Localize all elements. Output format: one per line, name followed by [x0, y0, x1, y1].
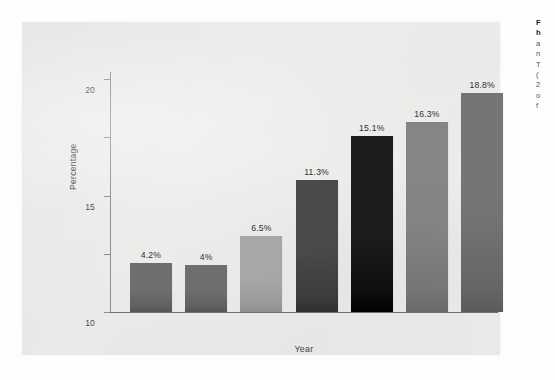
caption-line: F	[536, 18, 555, 28]
bar-value-label: 6.5%	[251, 223, 271, 233]
y-tick-mark: 5	[104, 254, 110, 255]
y-axis-line	[110, 72, 111, 312]
caption-line: n	[536, 49, 555, 59]
caption-text-cropped: FhanT(2of	[536, 18, 555, 128]
caption-line: (	[536, 70, 555, 80]
bar[interactable]	[185, 265, 227, 312]
bar-value-label: 4%	[200, 252, 213, 262]
bar-value-label: 11.3%	[304, 167, 329, 177]
caption-line: T	[536, 60, 555, 70]
y-tick-mark: 20	[104, 79, 110, 80]
chart-panel: Percentage 05101520 4.2%1963-19654%1971-…	[22, 22, 500, 355]
bar[interactable]	[130, 263, 172, 312]
bar-value-label: 4.2%	[141, 250, 161, 260]
bar[interactable]	[296, 180, 338, 312]
y-tick-mark: 0	[104, 312, 110, 313]
caption-line: h	[536, 28, 555, 38]
caption-line: 2	[536, 80, 555, 90]
x-axis-line	[110, 312, 498, 313]
y-tick-label: 10	[85, 318, 95, 328]
caption-line: a	[536, 39, 555, 49]
y-tick-label: 15	[85, 202, 95, 212]
caption-line: o	[536, 91, 555, 101]
bar[interactable]	[240, 236, 282, 312]
y-tick-label: 20	[85, 85, 95, 95]
y-axis-title: Percentage	[68, 144, 78, 190]
x-axis-title: Year	[110, 344, 498, 354]
y-tick-mark: 10	[104, 196, 110, 197]
bar-value-label: 15.1%	[359, 123, 384, 133]
caption-line: f	[536, 101, 555, 111]
figure-page: Percentage 05101520 4.2%1963-19654%1971-…	[0, 0, 555, 380]
y-tick-mark: 15	[104, 137, 110, 138]
plot-area: 05101520 4.2%1963-19654%1971-19746.5%197…	[110, 68, 498, 312]
bar[interactable]	[406, 122, 448, 312]
bar-value-label: 18.8%	[470, 80, 495, 90]
bar[interactable]	[351, 136, 393, 312]
bar[interactable]	[461, 93, 503, 312]
bar-value-label: 16.3%	[414, 109, 439, 119]
